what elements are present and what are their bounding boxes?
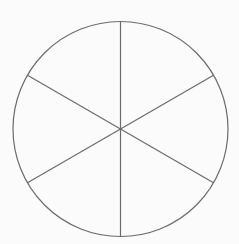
segmented-circle-diagram <box>0 0 239 244</box>
spokes-group <box>28 22 214 237</box>
